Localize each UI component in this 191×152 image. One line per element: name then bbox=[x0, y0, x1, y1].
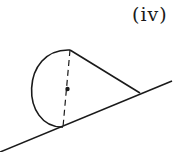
inclined-plane bbox=[0, 81, 172, 152]
cone-upper-edge bbox=[70, 50, 140, 93]
diagram-svg bbox=[0, 0, 191, 152]
diagram-canvas: (iv) bbox=[0, 0, 191, 152]
center-point bbox=[65, 87, 69, 91]
